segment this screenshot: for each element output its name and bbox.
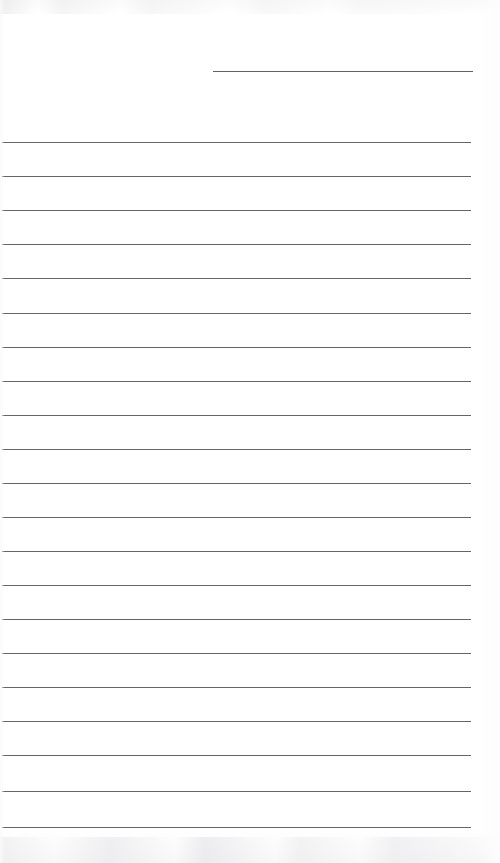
ruled-line-write-zone[interactable] (2, 188, 471, 210)
header-signature-rule[interactable] (213, 71, 473, 72)
ruled-line-write-zone[interactable] (2, 769, 471, 791)
ruled-line[interactable] (2, 449, 471, 450)
ruled-line[interactable] (2, 210, 471, 211)
ruled-line-write-zone[interactable] (2, 222, 471, 244)
ruled-line-write-zone[interactable] (2, 665, 471, 687)
ruled-line[interactable] (2, 551, 471, 552)
ruled-line-write-zone[interactable] (2, 597, 471, 619)
ruled-line-write-zone[interactable] (2, 393, 471, 415)
ruled-line[interactable] (2, 721, 471, 722)
scan-artifact-bottom (0, 837, 500, 863)
page-edge-right (478, 0, 500, 863)
ruled-line[interactable] (2, 687, 471, 688)
ruled-line-write-zone[interactable] (2, 427, 471, 449)
ruled-line[interactable] (2, 791, 471, 792)
scanned-page (0, 0, 500, 863)
ruled-line-write-zone[interactable] (2, 325, 471, 347)
ruled-line[interactable] (2, 827, 471, 828)
ruled-line-write-zone[interactable] (2, 631, 471, 653)
ruled-line[interactable] (2, 653, 471, 654)
ruled-line[interactable] (2, 381, 471, 382)
ruled-line[interactable] (2, 517, 471, 518)
ruled-line[interactable] (2, 244, 471, 245)
ruled-line-write-zone[interactable] (2, 256, 471, 278)
ruled-line[interactable] (2, 755, 471, 756)
ruled-line-write-zone[interactable] (2, 563, 471, 585)
ruled-line-write-zone[interactable] (2, 291, 471, 313)
scan-artifact-top (0, 0, 500, 14)
ruled-line-write-zone[interactable] (2, 120, 471, 142)
ruled-line-write-zone[interactable] (2, 529, 471, 551)
ruled-line-write-zone[interactable] (2, 805, 471, 827)
header-signature-field[interactable] (213, 51, 473, 71)
ruled-line-write-zone[interactable] (2, 733, 471, 755)
ruled-line[interactable] (2, 278, 471, 279)
ruled-line-write-zone[interactable] (2, 359, 471, 381)
ruled-line[interactable] (2, 585, 471, 586)
ruled-line-write-zone[interactable] (2, 461, 471, 483)
ruled-line[interactable] (2, 619, 471, 620)
ruled-line[interactable] (2, 176, 471, 177)
ruled-line[interactable] (2, 313, 471, 314)
ruled-line[interactable] (2, 483, 471, 484)
ruled-line[interactable] (2, 142, 471, 143)
ruled-line-write-zone[interactable] (2, 699, 471, 721)
ruled-line[interactable] (2, 415, 471, 416)
ruled-line-write-zone[interactable] (2, 495, 471, 517)
ruled-line[interactable] (2, 347, 471, 348)
ruled-line-write-zone[interactable] (2, 154, 471, 176)
